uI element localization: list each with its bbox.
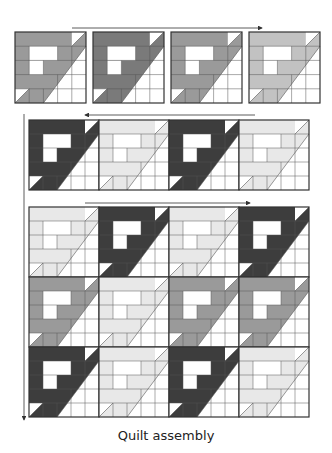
quilt-block-r3-c4 (239, 207, 309, 277)
quilt-block-r3-c2 (99, 207, 169, 277)
quilt-block-r5-c4 (239, 347, 309, 417)
quilt-block-r1-c2 (93, 32, 164, 103)
quilt-block-r5-c3 (169, 347, 239, 417)
quilt-block-r1-c4 (249, 32, 320, 103)
quilt-block-r1-c1 (15, 32, 86, 103)
quilt-block-r2-c3 (169, 120, 239, 190)
quilt-block-r3-c1 (29, 207, 99, 277)
quilt-block-r5-c1 (29, 347, 99, 417)
figure-caption: Quilt assembly (0, 428, 332, 443)
quilt-block-r4-c1 (29, 277, 99, 347)
quilt-block-r1-c3 (171, 32, 242, 103)
quilt-block-r4-c4 (239, 277, 309, 347)
quilt-block-r2-c2 (99, 120, 169, 190)
quilt-block-r2-c1 (29, 120, 99, 190)
quilt-block-r2-c4 (239, 120, 309, 190)
quilt-block-r4-c2 (99, 277, 169, 347)
quilt-block-r3-c3 (169, 207, 239, 277)
quilt-block-r4-c3 (169, 277, 239, 347)
quilt-block-r5-c2 (99, 347, 169, 417)
quilt-assembly-diagram (0, 0, 332, 453)
